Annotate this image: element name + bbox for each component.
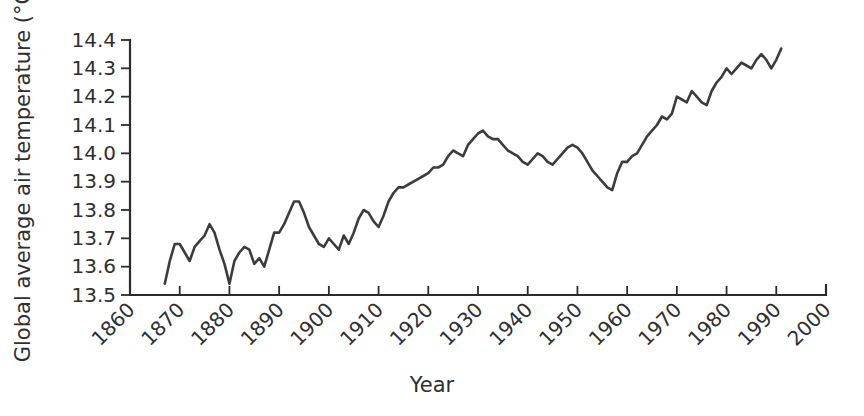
y-tick-label: 14.4 xyxy=(71,28,116,52)
data-series-layer xyxy=(165,49,781,284)
y-axis-title: Global average air temperature (°C) xyxy=(11,0,35,362)
y-tick-label: 13.6 xyxy=(71,254,116,278)
x-tick-label: 1930 xyxy=(435,298,488,351)
x-tick-label: 2000 xyxy=(783,298,836,351)
x-tick-label: 1910 xyxy=(335,298,388,351)
x-tick-label: 1870 xyxy=(136,298,189,351)
x-tick-label: 1920 xyxy=(385,298,438,351)
x-tick-label: 1980 xyxy=(683,298,736,351)
x-tick-label: 1990 xyxy=(733,298,786,351)
x-tick-label: 1890 xyxy=(236,298,289,351)
y-tick-label: 14.2 xyxy=(71,84,116,108)
x-tick-label: 1950 xyxy=(534,298,587,351)
y-tick-label: 13.5 xyxy=(71,283,116,307)
chart-canvas: 13.513.613.713.813.914.014.114.214.314.4… xyxy=(0,0,864,416)
y-tick-label: 13.8 xyxy=(71,198,116,222)
y-tick-label: 14.0 xyxy=(71,141,116,165)
y-tick-label: 14.1 xyxy=(71,113,116,137)
y-axis-ticks: 13.513.613.713.813.914.014.114.214.314.4 xyxy=(71,28,130,307)
x-tick-label: 1940 xyxy=(484,298,537,351)
temperature-series-line xyxy=(165,49,781,284)
x-tick-label: 1960 xyxy=(584,298,637,351)
x-tick-label: 1900 xyxy=(285,298,338,351)
y-tick-label: 13.9 xyxy=(71,169,116,193)
temperature-line-chart: 13.513.613.713.813.914.014.114.214.314.4… xyxy=(0,0,864,416)
x-tick-label: 1880 xyxy=(186,298,239,351)
x-tick-label: 1970 xyxy=(633,298,686,351)
y-tick-label: 13.7 xyxy=(71,226,116,250)
y-tick-label: 14.3 xyxy=(71,56,116,80)
x-axis-title: Year xyxy=(409,373,455,397)
